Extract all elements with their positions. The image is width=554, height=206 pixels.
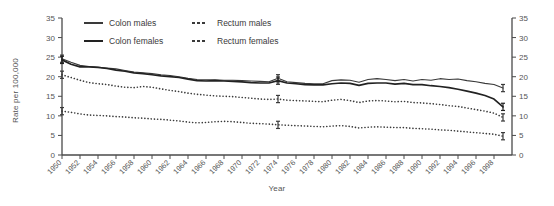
legend-item-rectum-males: Rectum males [192, 18, 271, 28]
x-tick-label: 1980 [315, 158, 333, 176]
rate-trend-chart: 0055101015152020252530303535195019521954… [0, 0, 554, 206]
x-tick-label: 1974 [261, 158, 279, 176]
x-tick-label: 1952 [63, 158, 81, 176]
y-tick-label-right: 35 [519, 14, 528, 23]
x-tick-label: 1984 [351, 158, 369, 176]
solid-thick-line-icon [84, 36, 103, 46]
y-tick-label-left: 30 [46, 34, 55, 43]
legend-row-males: Colon males Rectum males [84, 14, 278, 32]
x-tick-label: 1992 [423, 158, 441, 176]
y-tick-label-right: 20 [519, 73, 528, 82]
legend-item-colon-females: Colon females [84, 36, 192, 46]
y-tick-label-right: 15 [519, 92, 528, 101]
x-tick-label: 1976 [279, 158, 297, 176]
y-tick-label-left: 20 [46, 73, 55, 82]
x-tick-label: 1990 [405, 158, 423, 176]
legend-label: Rectum males [217, 18, 271, 28]
x-tick-label: 1988 [387, 158, 405, 176]
x-tick-label: 1986 [369, 158, 387, 176]
solid-line-icon [84, 18, 103, 28]
y-tick-label-left: 5 [51, 131, 56, 140]
x-tick-label: 1962 [153, 158, 171, 176]
x-tick-label: 1966 [189, 158, 207, 176]
y-tick-label-right: 30 [519, 34, 528, 43]
x-tick-label: 1956 [99, 158, 117, 176]
x-axis-title: Year [0, 184, 554, 193]
x-tick-label: 1996 [459, 158, 477, 176]
series-line-rectum-females [62, 111, 503, 136]
x-tick-label: 1998 [477, 158, 495, 176]
series-line-colon-males [62, 59, 503, 88]
y-tick-label-left: 15 [46, 92, 55, 101]
y-tick-label-right: 0 [519, 151, 524, 160]
dotted-line-icon [192, 36, 211, 46]
dotted-line-icon [192, 18, 211, 28]
legend-label: Colon males [109, 18, 156, 28]
chart-legend: Colon males Rectum males Colon females R… [84, 14, 278, 50]
x-tick-label: 1968 [207, 158, 225, 176]
legend-label: Rectum females [217, 36, 278, 46]
legend-row-females: Colon females Rectum females [84, 32, 278, 50]
y-tick-label-right: 25 [519, 53, 528, 62]
x-tick-label: 1950 [45, 158, 63, 176]
legend-item-rectum-females: Rectum females [192, 36, 278, 46]
y-tick-label-right: 5 [519, 131, 524, 140]
x-tick-label: 1978 [297, 158, 315, 176]
y-axis-title: Rate per 100,000 [11, 46, 20, 136]
x-tick-label: 1994 [441, 158, 459, 176]
x-tick-label: 1960 [135, 158, 153, 176]
y-tick-label-left: 35 [46, 14, 55, 23]
series-line-colon-females [62, 60, 503, 107]
legend-label: Colon females [109, 36, 163, 46]
x-tick-label: 1982 [333, 158, 351, 176]
x-tick-label: 1972 [243, 158, 261, 176]
x-tick-label: 1958 [117, 158, 135, 176]
y-tick-label-right: 10 [519, 112, 528, 121]
legend-item-colon-males: Colon males [84, 18, 192, 28]
x-tick-label: 1970 [225, 158, 243, 176]
y-tick-label-left: 10 [46, 112, 55, 121]
x-tick-label: 1964 [171, 158, 189, 176]
x-tick-label: 1954 [81, 158, 99, 176]
y-tick-label-left: 25 [46, 53, 55, 62]
y-tick-label-left: 0 [51, 151, 56, 160]
